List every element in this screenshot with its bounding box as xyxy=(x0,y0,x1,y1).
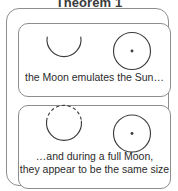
moon-crescent-icon xyxy=(39,32,89,70)
panel-top-caption: the Moon emulates the Sun… xyxy=(19,71,170,84)
panel-full-moon-same-size: …and during a full Moon, they appear to … xyxy=(18,105,171,189)
panel-moon-emulates-sun: the Moon emulates the Sun… xyxy=(18,23,171,97)
outer-frame: the Moon emulates the Sun… …and during a… xyxy=(6,8,169,186)
sun-disc-icon xyxy=(108,28,156,74)
panel-bottom-caption-line-2: they appear to be the same size xyxy=(19,163,170,176)
theorem-figure: Theorem 1 the Moon emulates the Sun… xyxy=(0,0,178,191)
panel-bottom-caption-line-1: …and during a full Moon, xyxy=(19,150,170,163)
